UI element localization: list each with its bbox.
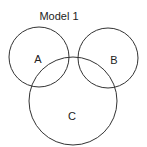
diagram-title: Model 1 xyxy=(39,10,78,22)
circle-a-label: A xyxy=(34,53,42,65)
venn-diagram: Model 1 A B C xyxy=(0,0,147,147)
circle-b-label: B xyxy=(110,54,117,66)
circle-c-label: C xyxy=(68,110,76,122)
circle-c xyxy=(29,57,117,145)
circle-b xyxy=(78,28,138,88)
